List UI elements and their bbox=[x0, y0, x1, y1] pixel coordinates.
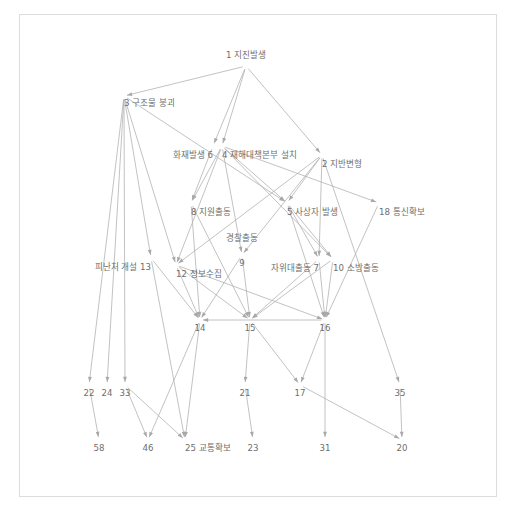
arrowhead-icon bbox=[148, 250, 152, 255]
arrowhead-icon bbox=[301, 377, 305, 383]
node-label-4[interactable]: 4 재해대책본부 설치 bbox=[222, 149, 297, 160]
node-label-7[interactable]: 자위대출동 7 bbox=[271, 263, 319, 273]
arrowhead-icon bbox=[149, 432, 153, 438]
edge-10-to-16 bbox=[325, 262, 332, 317]
arrowhead-icon bbox=[127, 92, 133, 96]
node-label-23[interactable]: 23 bbox=[248, 443, 259, 453]
arrowhead-icon bbox=[323, 432, 327, 437]
node-label-1[interactable]: 1 지진발생 bbox=[226, 50, 266, 60]
arrowhead-icon bbox=[172, 257, 176, 263]
node-label-31[interactable]: 31 bbox=[320, 443, 331, 453]
arrowhead-icon bbox=[313, 251, 317, 256]
node-label-25[interactable]: 25 교통확보 bbox=[185, 442, 231, 453]
node-label-6[interactable]: 화재발생 6 bbox=[173, 150, 213, 160]
node-label-15[interactable]: 15 bbox=[245, 323, 256, 333]
node-label-14[interactable]: 14 bbox=[195, 323, 206, 333]
arrowhead-icon bbox=[202, 312, 206, 317]
arrowhead-icon bbox=[317, 251, 321, 256]
arrowhead-icon bbox=[250, 432, 254, 437]
node-label-9[interactable]: 경찰출동 bbox=[226, 232, 258, 243]
arrowhead-icon bbox=[396, 377, 400, 383]
node-label-2[interactable]: 2 지반변형 bbox=[322, 159, 362, 169]
edge-1-to-4 bbox=[223, 69, 245, 143]
node-label-46[interactable]: 46 bbox=[143, 443, 154, 453]
causal-flow-graph: 1 지진발생3 구조물 붕괴화재발생 64 재해대책본부 설치2 지반변형8 지… bbox=[0, 0, 514, 515]
node-label-13[interactable]: 피난처 개설 13 bbox=[95, 262, 151, 272]
edge-3-to-33 bbox=[124, 100, 125, 383]
arrowhead-icon bbox=[293, 377, 298, 382]
arrowhead-icon bbox=[203, 318, 208, 322]
arrowhead-icon bbox=[239, 247, 243, 252]
arrowhead-icon bbox=[400, 432, 404, 437]
arrowhead-icon bbox=[106, 377, 110, 382]
edge-33-to-25 bbox=[128, 387, 183, 438]
arrowhead-icon bbox=[123, 377, 127, 382]
arrowhead-icon bbox=[96, 432, 100, 437]
edge-14-to-25 bbox=[185, 323, 199, 437]
arrowhead-icon bbox=[143, 432, 147, 438]
edge-15-to-17 bbox=[252, 323, 298, 383]
arrowhead-icon bbox=[182, 432, 186, 437]
node-label-21[interactable]: 21 bbox=[240, 388, 251, 398]
node-label-58[interactable]: 58 bbox=[94, 443, 105, 453]
edges-layer bbox=[88, 67, 404, 439]
edge-5-to-16 bbox=[288, 206, 324, 317]
arrowhead-icon bbox=[214, 138, 218, 144]
node-label-33[interactable]: 33 bbox=[120, 388, 131, 398]
diagram-canvas: 1 지진발생3 구조물 붕괴화재발생 64 재해대책본부 설치2 지반변형8 지… bbox=[0, 0, 514, 515]
node-label-20[interactable]: 20 bbox=[397, 443, 408, 453]
node-label-35[interactable]: 35 bbox=[395, 388, 406, 398]
arrowhead-icon bbox=[394, 434, 399, 438]
edge-18-to-16 bbox=[326, 206, 377, 317]
node-label-3[interactable]: 3 구조물 붕괴 bbox=[124, 98, 175, 108]
edge-1-to-3 bbox=[127, 67, 243, 95]
arrowhead-icon bbox=[317, 315, 323, 319]
node-label-22[interactable]: 22 bbox=[84, 388, 95, 398]
node-label-12[interactable]: 12 정보수집 bbox=[176, 268, 222, 279]
edge-2-to-5 bbox=[289, 158, 320, 201]
node-label-10[interactable]: 10 소방출동 bbox=[333, 263, 379, 273]
edge-3-to-22 bbox=[89, 99, 123, 382]
edge-1-to-2 bbox=[248, 69, 320, 153]
arrowhead-icon bbox=[223, 138, 227, 144]
edge-1-to-6 bbox=[214, 69, 245, 143]
node-label-16[interactable]: 16 bbox=[320, 323, 331, 333]
node-label-5[interactable]: 5 사상자 발생 bbox=[287, 207, 338, 217]
arrowhead-icon bbox=[88, 377, 92, 382]
edge-13-to-25 bbox=[152, 261, 185, 437]
edge-17-to-20 bbox=[303, 387, 399, 439]
edge-4-to-12 bbox=[177, 149, 221, 262]
node-label-9n[interactable]: 9 bbox=[239, 258, 244, 268]
nodes-layer: 1 지진발생3 구조물 붕괴화재발생 64 재해대책본부 설치2 지반변형8 지… bbox=[84, 50, 425, 453]
arrowhead-icon bbox=[371, 198, 377, 202]
node-label-17[interactable]: 17 bbox=[295, 388, 306, 398]
node-label-8[interactable]: 8 지원출동 bbox=[191, 207, 231, 217]
edge-3-to-24 bbox=[107, 99, 124, 382]
node-label-18[interactable]: 18 통신확보 bbox=[379, 206, 425, 217]
node-label-24[interactable]: 24 bbox=[102, 388, 113, 398]
edge-3-to-12 bbox=[125, 99, 175, 262]
edge-3-to-13 bbox=[125, 99, 151, 255]
edge-8-to-14 bbox=[191, 206, 200, 317]
edge-7-to-16 bbox=[319, 262, 324, 317]
